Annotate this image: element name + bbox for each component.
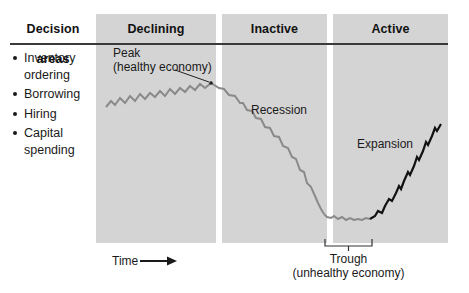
column-header-declining: Declining	[96, 14, 216, 44]
list-item-label: Capital spending	[24, 126, 75, 157]
annotation-peak: Peak (healthy economy)	[113, 46, 212, 74]
column-header-active: Active	[333, 14, 448, 44]
annotation-trough-line2: (unhealthy economy)	[287, 266, 411, 280]
annotation-trough-line1: Trough	[287, 252, 411, 266]
bullet-dot-icon	[13, 56, 17, 60]
header-divider-rule	[10, 43, 448, 45]
list-item-label: Borrowing	[24, 87, 80, 101]
phase-panel-inactive	[222, 14, 327, 243]
annotation-peak-line2: (healthy economy)	[113, 60, 212, 74]
list-item-label: Hiring	[24, 107, 57, 121]
list-item: Inventory ordering	[13, 50, 95, 83]
annotation-trough: Trough (unhealthy economy)	[287, 252, 411, 280]
list-item: Borrowing	[13, 86, 95, 103]
header-row: Decision areas Declining Inactive Active	[0, 14, 469, 44]
bullet-dot-icon	[13, 112, 17, 116]
decision-areas-list: Inventory ordering Borrowing Hiring Capi…	[13, 50, 95, 161]
column-header-decision-areas: Decision areas	[10, 14, 96, 44]
list-item-label: Inventory ordering	[24, 51, 75, 82]
annotation-expansion: Expansion	[357, 137, 413, 151]
annotation-recession: Recession	[251, 103, 307, 117]
business-cycle-figure: Decision areas Declining Inactive Active…	[0, 0, 469, 293]
annotation-peak-line1: Peak	[113, 46, 212, 60]
list-item: Hiring	[13, 106, 95, 123]
axis-label-time: Time	[112, 254, 138, 268]
bullet-dot-icon	[13, 131, 17, 135]
phase-panel-active	[333, 14, 448, 243]
bullet-dot-icon	[13, 92, 17, 96]
time-arrow-icon	[140, 257, 177, 266]
list-item: Capital spending	[13, 125, 95, 158]
column-header-inactive: Inactive	[222, 14, 327, 44]
